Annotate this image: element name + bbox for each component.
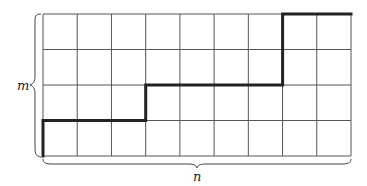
m-label: m (17, 79, 29, 92)
n-label: n (193, 170, 201, 183)
left-brace (30, 14, 41, 157)
bottom-brace (43, 159, 351, 168)
lattice-path-diagram (0, 0, 367, 186)
